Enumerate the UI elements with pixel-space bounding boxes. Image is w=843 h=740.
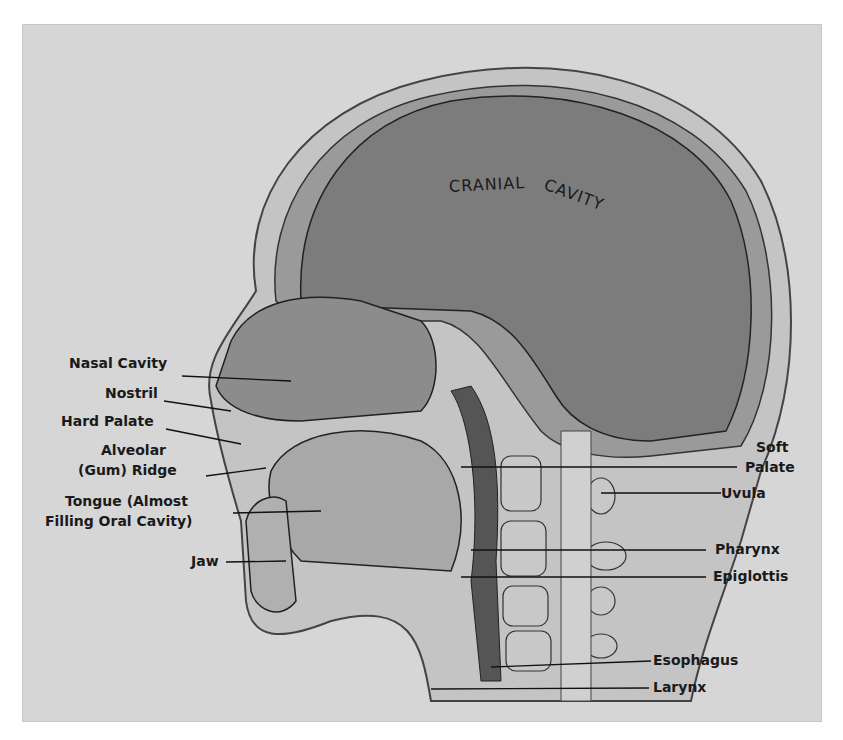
label-nasal-cavity: Nasal Cavity	[69, 355, 167, 372]
label-soft-palate-line2: Palate	[745, 459, 795, 476]
head-section-illustration	[23, 25, 821, 721]
label-uvula: Uvula	[721, 485, 766, 502]
label-pharynx: Pharynx	[715, 541, 780, 558]
label-esophagus: Esophagus	[653, 652, 738, 669]
cranial-label-part1: CRANIAL	[449, 173, 526, 196]
diagram-frame: CRANIAL CAVITY Nasal Cavity Nostril Hard…	[22, 24, 822, 722]
label-alveolar-ridge-line2: (Gum) Ridge	[78, 462, 177, 479]
cranial-cavity-label: CRANIAL	[449, 173, 526, 196]
label-epiglottis: Epiglottis	[713, 568, 788, 585]
label-larynx: Larynx	[653, 679, 706, 696]
label-jaw: Jaw	[191, 553, 219, 570]
tongue-shape	[269, 431, 461, 571]
label-nostril: Nostril	[105, 385, 158, 402]
label-tongue-line1: Tongue (Almost	[65, 493, 188, 510]
spinal-cord	[561, 431, 591, 701]
label-tongue-line2: Filling Oral Cavity)	[45, 513, 192, 530]
label-soft-palate-line1: Soft	[756, 439, 788, 456]
label-hard-palate: Hard Palate	[61, 413, 154, 430]
label-alveolar-ridge-line1: Alveolar	[101, 442, 166, 459]
